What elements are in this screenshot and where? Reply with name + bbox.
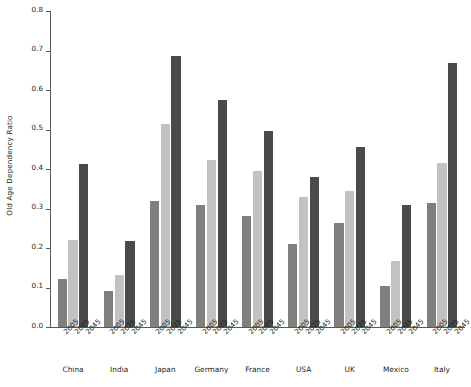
y-axis-tick: 0.8 [0,11,50,12]
x-axis-country-label: Japan [142,366,188,373]
y-axis-tick-label: 0.3 [32,203,43,210]
y-axis-tick-label: 0.5 [32,124,43,131]
y-axis-tick: 0.2 [0,248,50,249]
bar [288,244,297,327]
y-axis-tick-label: 0.7 [32,45,43,52]
bar [171,56,180,327]
bar [196,205,205,327]
bar [253,171,262,327]
bar [161,124,170,327]
y-axis-tick: 0.0 [0,327,50,328]
x-axis-country-label: China [50,366,96,373]
bar [334,223,343,327]
x-axis-country-label: India [96,366,142,373]
bar [125,241,134,327]
bar [380,286,389,327]
bar [299,197,308,327]
y-axis-tick: 0.6 [0,90,50,91]
y-axis-tick: 0.7 [0,51,50,52]
x-axis-country-label: Mexico [373,366,419,373]
y-axis-tick: 0.1 [0,288,50,289]
bar [207,160,216,327]
bar [104,291,113,327]
bar [58,279,67,327]
y-axis-tick-label: 0.4 [32,164,43,171]
x-axis-country-label: Italy [419,366,465,373]
x-axis-country-label: UK [327,366,373,373]
bar [427,203,436,327]
y-axis-tick: 0.5 [0,130,50,131]
bar [356,147,365,327]
bar [437,163,446,327]
y-axis-tick-label: 0.6 [32,85,43,92]
x-axis-country-label: Germany [188,366,234,373]
y-axis-title: Old Age Dependency Ratio [0,0,18,330]
bar [264,131,273,327]
bar [218,100,227,327]
y-axis-tick-label: 0.8 [32,6,43,13]
bar [79,164,88,327]
bar [150,201,159,327]
plot-area [50,11,465,327]
y-axis-tick-label: 0.1 [32,282,43,289]
bar [345,191,354,327]
bar [391,261,400,327]
y-axis-tick: 0.3 [0,209,50,210]
bar-chart: Old Age Dependency Ratio 0.00.10.20.30.4… [0,0,471,387]
bar [402,205,411,327]
x-axis-country-label: USA [281,366,327,373]
y-axis-tick-mark [46,327,50,328]
y-axis-tick: 0.4 [0,169,50,170]
bar [448,63,457,327]
bar [68,240,77,327]
y-axis-tick-label: 0.2 [32,243,43,250]
bar [242,216,251,327]
y-axis-tick-label: 0.0 [32,322,43,329]
x-axis-country-label: France [234,366,280,373]
bar [310,177,319,327]
